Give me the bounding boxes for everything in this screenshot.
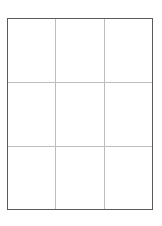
grid-cell-r3c1 xyxy=(8,147,55,209)
grid-3x3 xyxy=(7,18,153,210)
grid-cell-r2c1 xyxy=(8,83,55,146)
grid-cell-r2c3 xyxy=(105,83,152,146)
grid-cell-r1c2 xyxy=(56,19,104,82)
grid-cell-r2c2 xyxy=(56,83,104,146)
grid-cell-r3c3 xyxy=(105,147,152,209)
grid-cell-r1c1 xyxy=(8,19,55,82)
grid-cell-r1c3 xyxy=(105,19,152,82)
page-canvas xyxy=(0,0,162,226)
grid-cell-r3c2 xyxy=(56,147,104,209)
